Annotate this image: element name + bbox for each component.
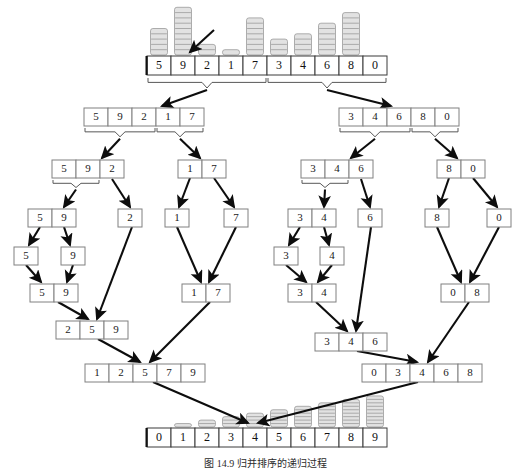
array-cell-value: 0	[371, 366, 377, 378]
array-cell-value: 2	[109, 162, 115, 174]
flow-arrow	[179, 178, 190, 207]
array-cell-value: 4	[348, 335, 354, 347]
array-node-l-59: 59	[28, 209, 76, 227]
input-bar-body	[151, 29, 168, 56]
array-cell-value: 6	[367, 211, 373, 223]
array-node-l-1: 1	[165, 209, 189, 227]
flow-arrow	[97, 227, 132, 319]
array-cell-value: 4	[252, 430, 258, 444]
array-cell-value: 8	[420, 110, 426, 122]
array-node-split-left: 59217	[84, 108, 204, 126]
flow-arrow	[64, 190, 76, 208]
input-bar-chart	[151, 7, 360, 55]
array-cell-value: 9	[372, 430, 378, 444]
array-cell-value: 9	[70, 249, 76, 261]
array-cell-value: 7	[166, 366, 172, 378]
array-cell-value: 3	[297, 286, 303, 298]
array-node-l-9-leaf: 9	[61, 247, 85, 265]
array-cell-value: 6	[372, 335, 378, 347]
flow-arrow	[64, 227, 70, 245]
split-brace	[53, 180, 99, 188]
flow-arrow	[102, 139, 120, 158]
array-node-split-right: 34680	[339, 108, 459, 126]
flow-arrow	[470, 227, 499, 282]
flow-arrow	[361, 179, 370, 207]
array-cell-value: 5	[39, 286, 45, 298]
array-start-marker	[146, 428, 148, 447]
split-brace	[302, 180, 348, 188]
array-node-result: 0123456789	[146, 428, 388, 447]
flow-arrow	[327, 90, 391, 106]
array-cell-value: 2	[65, 323, 71, 335]
flow-arrow	[437, 227, 461, 282]
flow-arrow	[439, 178, 449, 207]
sorted-bar	[367, 396, 384, 427]
array-cell-value: 0	[372, 58, 378, 72]
array-node-m-34: 34	[288, 284, 336, 302]
array-cell-value: 2	[127, 211, 133, 223]
array-node-l-17: 17	[178, 160, 226, 178]
flow-arrow	[153, 382, 248, 423]
flow-arrow	[324, 227, 329, 245]
array-node-m-59: 59	[30, 284, 78, 302]
input-bar	[271, 39, 288, 55]
sorted-bar-chart	[175, 396, 384, 427]
array-node-r-3-leaf: 3	[274, 247, 298, 265]
sorted-bar-body	[367, 396, 384, 427]
flow-arrow	[58, 302, 88, 319]
array-cell-value: 3	[283, 249, 289, 261]
array-node-l-2: 2	[118, 209, 142, 227]
array-cell-value: 0	[156, 430, 162, 444]
flow-arrow	[29, 227, 40, 245]
array-cell-value: 4	[321, 286, 327, 298]
split-brace	[412, 128, 458, 137]
array-nodes: 5921734680592173468059217346805921734680…	[14, 56, 511, 447]
array-cell-value: 7	[215, 286, 221, 298]
array-cell-value: 8	[348, 430, 354, 444]
array-node-r-0: 0	[487, 209, 511, 227]
array-cell-value: 7	[211, 162, 217, 174]
array-cell-value: 5	[142, 366, 148, 378]
array-cell-value: 6	[358, 162, 364, 174]
array-cell-value: 9	[61, 211, 67, 223]
flow-arrow	[67, 265, 73, 282]
array-node-l-5-leaf: 5	[14, 247, 38, 265]
array-start-marker	[146, 56, 148, 75]
array-cell-value: 2	[118, 366, 124, 378]
array-cell-value: 1	[180, 430, 186, 444]
flow-arrow	[428, 302, 469, 362]
array-cell-value: 9	[117, 110, 123, 122]
array-cell-value: 3	[228, 430, 234, 444]
array-node-r-6: 6	[358, 209, 382, 227]
array-cell-value: 5	[276, 430, 282, 444]
array-cell-value: 3	[297, 211, 303, 223]
flow-arrow	[357, 351, 417, 362]
flow-arrow	[26, 265, 41, 282]
array-cell-value: 0	[470, 162, 476, 174]
array-cell-value: 1	[191, 286, 197, 298]
split-brace	[268, 78, 386, 88]
array-cell-value: 9	[85, 162, 91, 174]
array-cell-value: 1	[165, 110, 171, 122]
sorted-bar	[247, 413, 264, 427]
array-cell-value: 4	[300, 58, 306, 72]
array-cell-value: 3	[324, 335, 330, 347]
sorted-bar	[175, 424, 192, 427]
array-cell-value: 5	[61, 162, 67, 174]
array-cell-value: 2	[204, 430, 210, 444]
array-node-m-17: 17	[182, 284, 230, 302]
flow-arrow	[180, 139, 200, 158]
array-cell-value: 7	[233, 211, 239, 223]
array-cell-value: 4	[372, 110, 378, 122]
array-cell-value: 3	[348, 110, 354, 122]
array-cell-value: 8	[474, 286, 480, 298]
flow-arrow	[324, 190, 325, 208]
array-cell-value: 4	[419, 366, 425, 378]
array-cell-value: 3	[310, 162, 316, 174]
array-cell-value: 1	[94, 366, 100, 378]
flow-arrow	[214, 178, 234, 207]
sorted-bar-body	[175, 424, 192, 427]
sorted-bar	[199, 420, 216, 427]
array-cell-value: 0	[444, 110, 450, 122]
array-node-r-8: 8	[425, 209, 449, 227]
